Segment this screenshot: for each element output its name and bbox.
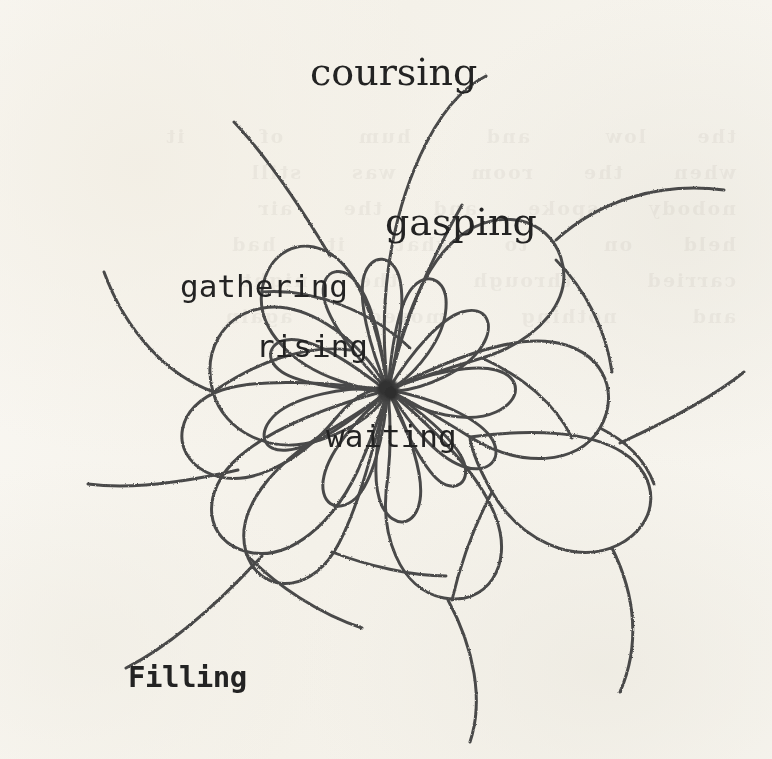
outer-loop-gasping — [388, 219, 564, 390]
mid-arc-5 — [332, 552, 446, 576]
artwork-page: the low and hum of it when the room was … — [0, 0, 772, 759]
tail-bottom — [448, 600, 476, 742]
label-gasping: gasping — [385, 200, 537, 244]
label-gathering: gathering — [180, 268, 348, 304]
tail-lower-left — [88, 470, 238, 486]
label-filling-title: Filling — [128, 660, 247, 694]
tail-right — [620, 372, 744, 443]
outer-loop-lower-left — [212, 390, 388, 554]
center-hub — [377, 379, 400, 402]
mid-arc-4 — [452, 492, 492, 600]
mid-arc-6 — [246, 554, 362, 628]
tail-lower-right — [612, 548, 633, 692]
label-coursing: coursing — [310, 50, 477, 94]
tail-upper-right — [556, 188, 724, 240]
tail-bottom-left — [126, 556, 262, 668]
label-rising: rising — [256, 328, 368, 364]
tail-top-left — [234, 122, 330, 256]
spirograph-rose-drawing — [0, 0, 772, 759]
curve-group — [88, 76, 744, 742]
label-waiting: waiting — [326, 418, 457, 454]
